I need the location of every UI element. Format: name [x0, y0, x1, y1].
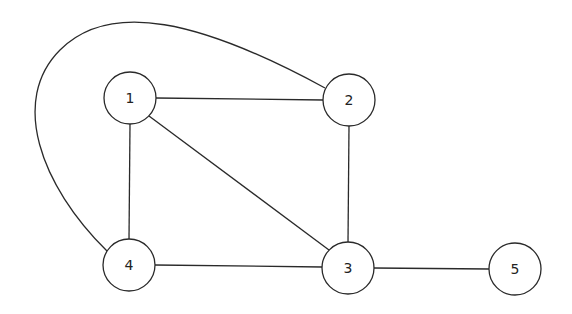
- nodes: 1 2 3 4 5: [103, 72, 541, 295]
- edge-3-5: [374, 268, 489, 269]
- edge-4-3: [155, 265, 322, 267]
- node-4[interactable]: 4: [103, 239, 155, 291]
- edge-1-4: [129, 124, 130, 239]
- edges: [35, 22, 489, 269]
- edge-1-3: [149, 116, 329, 250]
- node-3-label: 3: [344, 260, 353, 276]
- node-3[interactable]: 3: [322, 242, 374, 294]
- node-2-label: 2: [345, 92, 354, 108]
- node-4-label: 4: [125, 257, 134, 273]
- edge-4-2-curved: [35, 22, 325, 251]
- edge-2-3: [348, 126, 349, 242]
- node-5-label: 5: [511, 261, 520, 277]
- node-1[interactable]: 1: [104, 72, 156, 124]
- node-5[interactable]: 5: [489, 243, 541, 295]
- node-1-label: 1: [126, 90, 135, 106]
- graph-canvas: 1 2 3 4 5: [0, 0, 572, 314]
- edge-1-2: [156, 98, 323, 100]
- node-2[interactable]: 2: [323, 74, 375, 126]
